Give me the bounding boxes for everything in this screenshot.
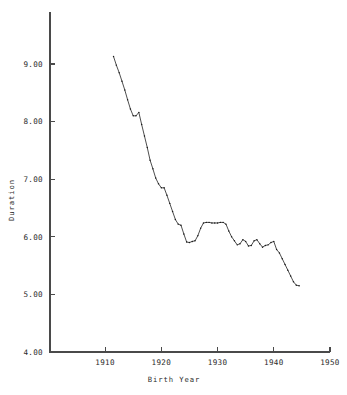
data-point <box>149 159 150 160</box>
x-tick-label-0: 1910 <box>95 358 115 367</box>
axis-ticks <box>50 64 330 352</box>
x-tick-label-4: 1950 <box>320 358 340 367</box>
data-point <box>222 222 223 223</box>
data-point <box>147 147 148 148</box>
data-point <box>296 284 297 285</box>
data-point <box>206 222 207 223</box>
data-point <box>284 264 285 265</box>
data-point <box>175 219 176 220</box>
data-point <box>163 187 164 188</box>
data-point <box>124 89 125 90</box>
data-point <box>203 222 204 223</box>
data-point <box>192 241 193 242</box>
data-point <box>245 241 246 242</box>
data-point <box>259 243 260 244</box>
data-point <box>180 225 181 226</box>
data-point <box>265 245 266 246</box>
data-point <box>251 245 252 246</box>
data-point <box>130 108 131 109</box>
data-point <box>276 249 277 250</box>
data-point <box>287 269 288 270</box>
data-point <box>158 183 159 184</box>
y-tick-label-0: 4.00 <box>24 348 44 357</box>
data-point <box>177 223 178 224</box>
data-point <box>155 177 156 178</box>
data-point <box>189 242 190 243</box>
data-point <box>298 285 299 286</box>
data-point <box>200 227 201 228</box>
data-point <box>279 252 280 253</box>
y-tick-label-5: 9.00 <box>24 60 44 69</box>
data-point <box>217 222 218 223</box>
data-point <box>186 241 187 242</box>
data-point <box>138 112 139 113</box>
y-axis-title: Duration <box>7 179 16 221</box>
data-point <box>116 64 117 65</box>
series-line-0 <box>114 57 300 286</box>
x-tick-label-2: 1930 <box>208 358 228 367</box>
data-point <box>135 115 136 116</box>
data-point <box>208 222 209 223</box>
data-point <box>121 81 122 82</box>
data-point <box>113 56 114 57</box>
chart-figure: 4.005.006.007.008.009.001910192019301940… <box>0 0 347 395</box>
data-point <box>267 244 268 245</box>
data-point <box>152 168 153 169</box>
data-point <box>225 223 226 224</box>
data-point <box>172 211 173 212</box>
data-point <box>211 222 212 223</box>
data-point <box>242 239 243 240</box>
y-tick-label-3: 7.00 <box>24 175 44 184</box>
x-tick-label-1: 1920 <box>152 358 172 367</box>
data-point <box>118 72 119 73</box>
data-point <box>290 275 291 276</box>
axis-tick-labels: 4.005.006.007.008.009.001910192019301940… <box>24 60 340 367</box>
data-point <box>256 239 257 240</box>
data-point <box>239 243 240 244</box>
data-point <box>183 233 184 234</box>
chart-canvas: 4.005.006.007.008.009.001910192019301940… <box>0 0 347 395</box>
data-point <box>253 240 254 241</box>
data-point <box>197 235 198 236</box>
axis-spines <box>50 12 330 352</box>
data-point <box>141 124 142 125</box>
data-point <box>132 115 133 116</box>
data-point <box>237 244 238 245</box>
data-point <box>161 187 162 188</box>
axes <box>50 12 330 352</box>
x-tick-label-3: 1940 <box>264 358 284 367</box>
data-point <box>228 230 229 231</box>
y-tick-label-1: 5.00 <box>24 290 44 299</box>
data-point <box>234 240 235 241</box>
data-point <box>273 241 274 242</box>
data-point <box>144 135 145 136</box>
data-point <box>248 245 249 246</box>
y-tick-label-2: 6.00 <box>24 233 44 242</box>
data-point <box>166 195 167 196</box>
y-tick-label-4: 8.00 <box>24 117 44 126</box>
data-point <box>194 240 195 241</box>
data-series <box>113 56 300 287</box>
x-axis-title: Birth Year <box>148 375 200 384</box>
data-point <box>262 246 263 247</box>
data-point <box>270 242 271 243</box>
data-point <box>220 222 221 223</box>
data-point <box>127 99 128 100</box>
data-point <box>281 258 282 259</box>
data-point <box>293 281 294 282</box>
data-point <box>214 222 215 223</box>
data-point <box>231 236 232 237</box>
data-point <box>169 203 170 204</box>
